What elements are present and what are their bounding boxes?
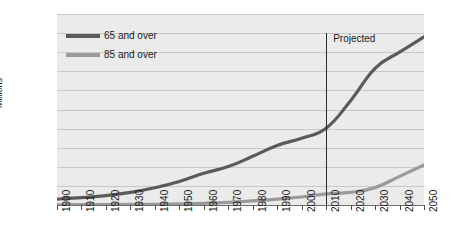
x-axis-tick-label: 1930 — [134, 190, 145, 212]
x-axis-tick-label: 2000 — [306, 190, 317, 212]
x-axis-tick-mark — [302, 205, 303, 210]
x-axis-tick-mark — [326, 205, 327, 210]
x-axis-tick-label: 2050 — [428, 190, 439, 212]
x-axis-tick-label: 1900 — [61, 190, 72, 212]
legend-label: 85 and over — [104, 49, 157, 60]
x-axis-tick-label: 1910 — [85, 190, 96, 212]
x-axis-tick-mark — [400, 205, 401, 210]
projected-divider-line — [326, 33, 327, 205]
x-axis-tick-mark — [130, 205, 131, 210]
x-axis-tick-label: 2010 — [330, 190, 341, 212]
x-axis-tick-label: 1970 — [232, 190, 243, 212]
legend-label: 65 and over — [104, 30, 157, 41]
x-axis-tick-mark — [155, 205, 156, 210]
x-axis-tick-label: 1980 — [257, 190, 268, 212]
x-axis-tick-label: 2020 — [355, 190, 366, 212]
x-axis-tick-mark — [277, 205, 278, 210]
x-axis-tick-label: 2030 — [379, 190, 390, 212]
legend-entry: 65 and over — [66, 26, 157, 45]
legend-swatch — [66, 53, 100, 57]
x-axis-tick-mark — [228, 205, 229, 210]
legend-entry: 85 and over — [66, 45, 157, 64]
x-axis-tick-label: 1960 — [208, 190, 219, 212]
legend-swatch — [66, 34, 100, 38]
x-axis-tick-mark — [204, 205, 205, 210]
x-axis-tick-mark — [253, 205, 254, 210]
projected-annotation-label: Projected — [333, 33, 375, 44]
x-axis-tick-label: 1950 — [183, 190, 194, 212]
x-axis-tick-label: 1920 — [110, 190, 121, 212]
chart-legend: 65 and over85 and over — [66, 26, 157, 64]
chart-figure: 0102030405060708090100 Millions 19001910… — [0, 0, 454, 247]
x-axis-tick-mark — [179, 205, 180, 210]
x-axis-tick-mark — [106, 205, 107, 210]
x-axis-tick-label: 2040 — [404, 190, 415, 212]
x-axis-tick-mark — [81, 205, 82, 210]
x-axis-tick-mark — [424, 205, 425, 210]
x-axis-tick-label: 1990 — [281, 190, 292, 212]
x-axis-tick-mark — [57, 205, 58, 210]
y-axis-title: Millions — [0, 78, 4, 108]
x-axis-tick-label: 1940 — [159, 190, 170, 212]
x-axis-tick-mark — [351, 205, 352, 210]
x-axis-tick-mark — [375, 205, 376, 210]
